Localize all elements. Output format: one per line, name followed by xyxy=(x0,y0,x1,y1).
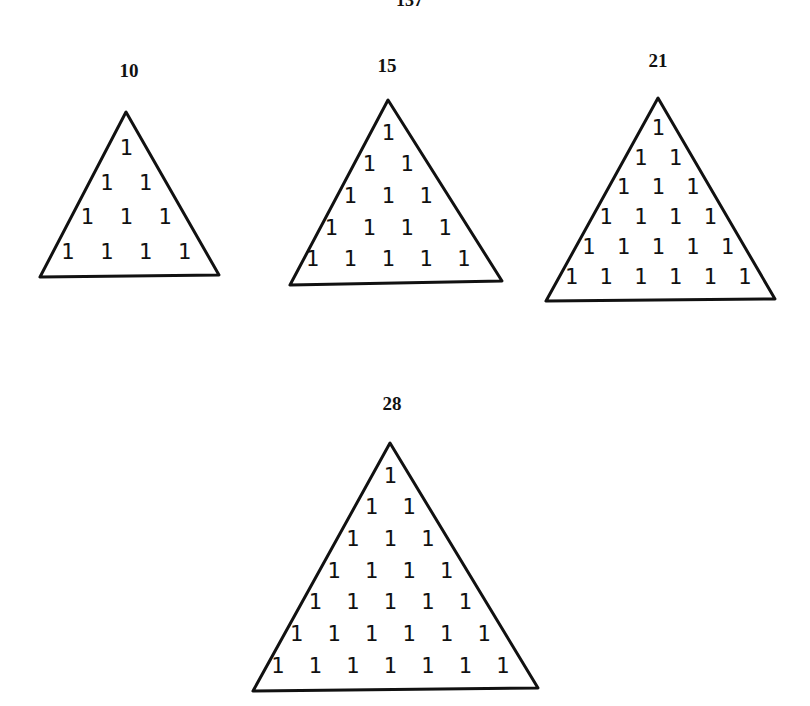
entry-one: 1 xyxy=(686,174,699,199)
entry-one: 1 xyxy=(119,204,132,229)
entry-one: 1 xyxy=(419,246,432,271)
entry-one: 1 xyxy=(721,234,734,259)
entry-one: 1 xyxy=(365,621,378,646)
entry-one: 1 xyxy=(651,174,664,199)
entry-one: 1 xyxy=(651,115,664,140)
entry-one: 1 xyxy=(400,151,413,176)
entry-one: 1 xyxy=(365,558,378,583)
entry-one: 1 xyxy=(458,589,471,614)
entry-one: 1 xyxy=(80,204,93,229)
entry-one: 1 xyxy=(651,234,664,259)
entry-one: 1 xyxy=(365,494,378,519)
entry-one: 1 xyxy=(381,183,394,208)
entry-one: 1 xyxy=(400,215,413,240)
entry-one: 1 xyxy=(100,239,113,264)
entry-one: 1 xyxy=(139,239,152,264)
entry-one: 1 xyxy=(381,246,394,271)
entry-one: 1 xyxy=(383,463,396,488)
entry-one: 1 xyxy=(308,653,321,678)
entry-one: 1 xyxy=(346,589,359,614)
entry-one: 1 xyxy=(100,170,113,195)
entry-one: 1 xyxy=(344,183,357,208)
entry-one: 1 xyxy=(440,621,453,646)
entry-one: 1 xyxy=(496,653,509,678)
entry-one: 1 xyxy=(344,246,357,271)
entry-one: 1 xyxy=(402,558,415,583)
entry-one: 1 xyxy=(458,653,471,678)
entry-one: 1 xyxy=(438,215,451,240)
entry-one: 1 xyxy=(669,145,682,170)
triangle-28: 1111111111111111111111111111 xyxy=(253,443,538,691)
entry-one: 1 xyxy=(402,621,415,646)
triangular-numbers-diagram: 1111111111111111111111111111111111111111… xyxy=(0,0,810,706)
entry-one: 1 xyxy=(457,246,470,271)
entry-one: 1 xyxy=(271,653,284,678)
entry-one: 1 xyxy=(440,558,453,583)
entry-one: 1 xyxy=(346,526,359,551)
entry-one: 1 xyxy=(325,215,338,240)
entry-one: 1 xyxy=(327,558,340,583)
entry-one: 1 xyxy=(634,264,647,289)
entry-one: 1 xyxy=(421,589,434,614)
entry-one: 1 xyxy=(362,215,375,240)
entry-one: 1 xyxy=(158,204,171,229)
entry-one: 1 xyxy=(669,204,682,229)
triangle-10: 1111111111 xyxy=(40,112,219,277)
entry-one: 1 xyxy=(582,234,595,259)
triangle-15: 111111111111111 xyxy=(290,100,502,285)
entry-one: 1 xyxy=(669,264,682,289)
entry-one: 1 xyxy=(119,135,132,160)
entry-one: 1 xyxy=(139,170,152,195)
entry-one: 1 xyxy=(383,589,396,614)
entry-one: 1 xyxy=(178,239,191,264)
entry-one: 1 xyxy=(362,151,375,176)
entry-one: 1 xyxy=(421,526,434,551)
entry-one: 1 xyxy=(686,234,699,259)
entry-one: 1 xyxy=(306,246,319,271)
entry-one: 1 xyxy=(383,526,396,551)
entry-one: 1 xyxy=(703,204,716,229)
entry-one: 1 xyxy=(308,589,321,614)
triangle-21: 111111111111111111111 xyxy=(546,98,775,301)
entry-one: 1 xyxy=(381,120,394,145)
entry-one: 1 xyxy=(346,653,359,678)
entry-one: 1 xyxy=(565,264,578,289)
entry-one: 1 xyxy=(599,204,612,229)
entry-one: 1 xyxy=(383,653,396,678)
entry-one: 1 xyxy=(617,174,630,199)
entry-one: 1 xyxy=(290,621,303,646)
entry-one: 1 xyxy=(599,264,612,289)
entry-one: 1 xyxy=(634,145,647,170)
entry-one: 1 xyxy=(617,234,630,259)
entry-one: 1 xyxy=(327,621,340,646)
entry-one: 1 xyxy=(402,494,415,519)
entry-one: 1 xyxy=(61,239,74,264)
entry-one: 1 xyxy=(477,621,490,646)
entry-one: 1 xyxy=(634,204,647,229)
entry-one: 1 xyxy=(738,264,751,289)
entry-one: 1 xyxy=(419,183,432,208)
entry-one: 1 xyxy=(703,264,716,289)
entry-one: 1 xyxy=(421,653,434,678)
